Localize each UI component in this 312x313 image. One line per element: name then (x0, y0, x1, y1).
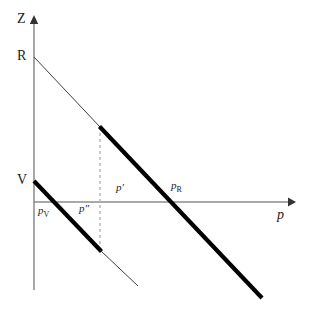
y-axis-label: Z (17, 12, 26, 26)
x-axis-group (34, 198, 296, 207)
x-axis-label: p (277, 208, 284, 222)
x-axis-arrowhead-icon (288, 198, 296, 207)
label-p-prime-marks: ′ (122, 181, 124, 193)
label-p-double-prime: p″ (79, 203, 89, 214)
label-p-sub-R: pR (171, 180, 182, 194)
label-p-double-prime-marks: ″ (85, 202, 90, 214)
plot-canvas (0, 0, 312, 313)
label-p-sub-V: pV (38, 205, 49, 219)
lower-line-thin-segment (101, 251, 139, 287)
label-p-sub-R-subscript: R (177, 185, 182, 194)
y-axis-group (30, 15, 38, 290)
y-axis-arrowhead-icon (30, 15, 38, 24)
label-R-intercept: R (17, 49, 26, 63)
label-p-sub-V-subscript: V (44, 210, 50, 219)
label-p-prime: p′ (116, 182, 124, 193)
label-V-intercept: V (17, 173, 27, 187)
upper-line-thin-segment (34, 57, 101, 128)
figure-container: Z p R V pV p″ p′ pR (0, 0, 312, 313)
